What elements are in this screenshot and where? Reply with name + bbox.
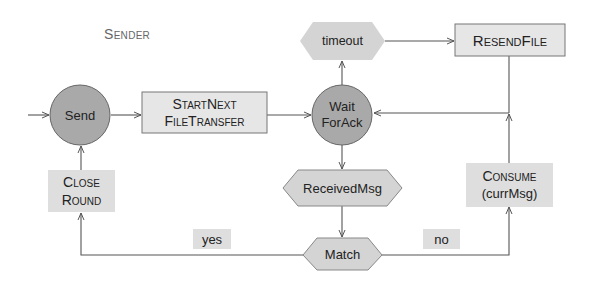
- consume-label: Consume (currMsg): [466, 166, 553, 204]
- timeout-label: timeout: [300, 32, 385, 50]
- startnext-line2: FileTransfer: [165, 113, 245, 130]
- send-label: Send: [50, 105, 110, 125]
- yes-edge-label: yes: [193, 229, 231, 249]
- closeround-label: Close Round: [48, 172, 115, 210]
- closeround-line2: Round: [62, 191, 102, 209]
- resendfile-label: ResendFile: [455, 30, 565, 50]
- waitforack-line1: Wait: [329, 99, 355, 115]
- waitforack-line2: ForAck: [321, 115, 362, 131]
- match-label: Match: [303, 245, 382, 263]
- diagram-title: Sender: [104, 26, 150, 42]
- startnext-label: StartNext FileTransfer: [142, 94, 267, 132]
- no-edge-label: no: [423, 229, 460, 249]
- edge-match-close-yes: [81, 213, 303, 255]
- consume-line1: Consume: [482, 167, 536, 185]
- closeround-line1: Close: [63, 173, 100, 191]
- waitforack-label: Wait ForAck: [312, 98, 372, 132]
- receivedmsg-label: ReceivedMsg: [283, 179, 402, 197]
- consume-line2: (currMsg): [482, 185, 538, 203]
- startnext-line1: StartNext: [172, 96, 236, 113]
